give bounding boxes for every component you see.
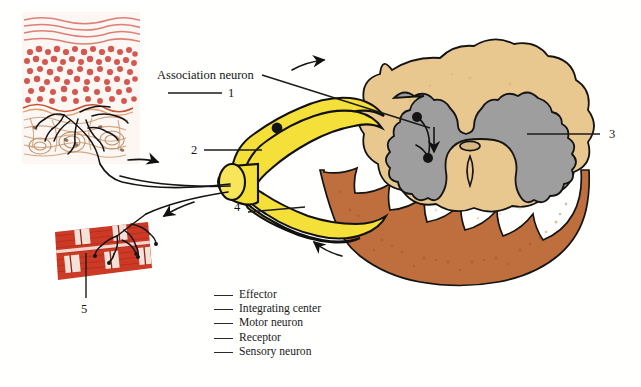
legend-list: Effector Integrating center Motor neuron… [214,288,321,359]
callout-association-neuron: Association neuron [157,68,254,83]
sensory-ascending-arrow [292,60,324,70]
label-number-4: 4 [234,200,240,215]
spinal-cord-cross-section [320,39,600,285]
skin-cross-section [22,12,142,164]
motor-to-effector-arrow [164,202,194,216]
synapse-dot-sensory [412,112,422,122]
motor-descending-arrow [314,242,342,256]
legend-item-effector[interactable]: Effector [214,288,321,302]
legend-term: Motor neuron [239,316,303,330]
legend-blank-line[interactable] [214,309,233,310]
ventral-median-fissure [467,156,473,186]
legend-item-receptor[interactable]: Receptor [214,331,321,345]
legend-blank-line[interactable] [214,295,233,296]
legend-term: Integrating center [239,302,321,316]
dorsal-root-ganglion [272,123,283,134]
legend-term: Receptor [239,331,281,345]
legend-item-sensory-neuron[interactable]: Sensory neuron [214,345,321,359]
label-number-1: 1 [228,86,234,101]
skeletal-muscle-effector [50,214,158,298]
synapse-dot-motor [423,153,433,163]
nerve-cut-end [219,164,245,200]
legend-blank-line[interactable] [214,352,233,353]
motor-axon [146,192,228,214]
peripheral-axon-paths [100,164,230,214]
label-number-5: 5 [81,302,87,317]
legend-item-integrating-center[interactable]: Integrating center [214,302,321,316]
legend-blank-line[interactable] [214,338,233,339]
legend-item-motor-neuron[interactable]: Motor neuron [214,316,321,330]
figure-canvas: Association neuron 1 2 3 4 5 Effector In… [0,0,641,387]
dorsal-root-inner [244,111,382,188]
legend-term: Sensory neuron [239,345,311,359]
central-canal [460,141,480,150]
label-number-2: 2 [191,143,197,158]
label-number-3: 3 [609,127,615,142]
legend-term: Effector [239,288,277,302]
legend-blank-line[interactable] [214,323,233,324]
